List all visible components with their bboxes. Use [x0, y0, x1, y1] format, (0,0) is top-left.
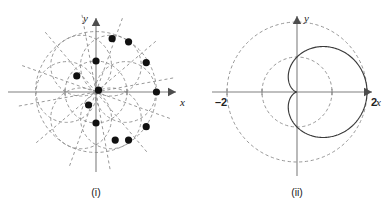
figure-root: xy(i) –22xy(ii)	[0, 0, 391, 205]
root-point	[125, 136, 132, 143]
root-point	[85, 101, 92, 108]
dashed-construction-circle	[81, 88, 142, 149]
panel-caption: (ii)	[291, 186, 303, 198]
x-axis-arrowhead	[168, 88, 176, 96]
dashed-construction-circle	[51, 88, 112, 149]
root-point	[73, 72, 80, 79]
dashed-construction-circle	[81, 35, 142, 96]
tick-labels-group: –22	[215, 96, 377, 108]
x-tick-label: –2	[215, 96, 227, 108]
root-point	[92, 119, 99, 126]
x-axis-label: x	[179, 96, 185, 108]
root-point	[92, 57, 99, 64]
root-point	[125, 38, 132, 45]
y-axis-arrowhead	[293, 16, 301, 24]
root-point	[143, 59, 150, 66]
root-point	[153, 88, 160, 95]
root-points-group	[73, 35, 160, 144]
root-point	[143, 123, 150, 130]
x-axis-label: x	[375, 96, 381, 108]
panel-caption: (i)	[91, 186, 100, 198]
y-axis-label: y	[303, 12, 309, 24]
panel-i-plot: xy(i)	[0, 0, 196, 205]
root-point	[109, 35, 116, 42]
panel-i: xy(i)	[0, 0, 196, 205]
root-point	[95, 87, 102, 94]
panel-ii: –22xy(ii)	[196, 0, 391, 205]
dashed-ray	[96, 18, 123, 92]
y-axis-arrowhead	[92, 18, 100, 26]
x-axis-arrowhead	[364, 88, 372, 96]
panel-ii-plot: –22xy(ii)	[196, 0, 391, 205]
y-axis-label: y	[82, 12, 88, 24]
root-point	[112, 136, 119, 143]
dashed-ray	[96, 92, 170, 119]
